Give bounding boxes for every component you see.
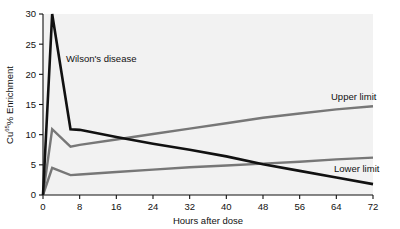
annotation-lower-limit: Lower limit	[334, 163, 380, 174]
x-tick-label: 16	[111, 201, 122, 212]
chart-figure: 051015202530 081624324048566472 Hours af…	[0, 0, 400, 229]
annotation-wilsons-disease: Wilson's disease	[66, 53, 136, 64]
line-chart: 051015202530 081624324048566472 Hours af…	[0, 0, 400, 229]
x-tick-label: 56	[294, 201, 305, 212]
y-axis-title-post: % Enrichment	[4, 66, 15, 125]
x-tick-label: 72	[368, 201, 379, 212]
x-tick-label: 24	[148, 201, 159, 212]
x-tick-label: 40	[221, 201, 232, 212]
x-axis-ticks: 081624324048566472	[40, 195, 378, 212]
y-tick-label: 0	[31, 189, 36, 200]
y-tick-label: 25	[25, 39, 36, 50]
x-tick-label: 32	[184, 201, 195, 212]
y-tick-label: 5	[31, 159, 36, 170]
y-axis-ticks: 051015202530	[25, 8, 43, 200]
x-tick-label: 0	[40, 201, 45, 212]
y-axis-title: Cu65% Enrichment	[4, 66, 15, 144]
plot-background	[43, 14, 373, 195]
x-tick-label: 8	[77, 201, 82, 212]
annotation-upper-limit: Upper limit	[331, 91, 377, 102]
x-axis-title: Hours after dose	[173, 215, 243, 226]
y-axis-title-pre: Cu	[4, 132, 15, 144]
y-tick-label: 15	[25, 99, 36, 110]
y-tick-label: 20	[25, 69, 36, 80]
svg-text:Cu65% Enrichment: Cu65% Enrichment	[4, 66, 15, 144]
x-tick-label: 48	[258, 201, 269, 212]
y-tick-label: 10	[25, 129, 36, 140]
x-tick-label: 64	[331, 201, 342, 212]
y-tick-label: 30	[25, 8, 36, 19]
